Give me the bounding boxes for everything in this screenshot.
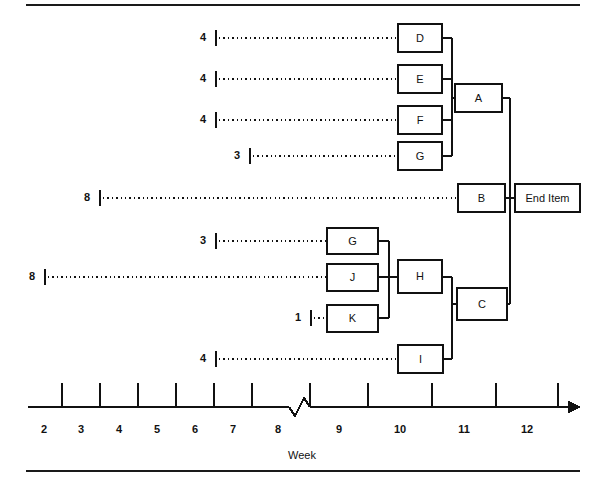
lead-time-label-d: 4 [196, 32, 210, 43]
axis-title-week: Week [270, 450, 334, 461]
node-label-g-top: G [398, 151, 442, 162]
axis-tick-label-10: 10 [388, 424, 412, 435]
axis-tick-label-4: 4 [107, 424, 131, 435]
axis-tick-label-7: 7 [221, 424, 245, 435]
axis-break-zigzag [289, 398, 310, 416]
axis-tick-label-5: 5 [145, 424, 169, 435]
node-label-e: E [398, 74, 442, 85]
lead-time-label-j: 8 [25, 271, 39, 282]
lead-time-label-k: 1 [291, 312, 305, 323]
axis-tick-label-11: 11 [452, 424, 476, 435]
node-label-end-item: End Item [515, 193, 580, 204]
lead-time-label-g-bottom: 3 [196, 235, 210, 246]
axis-tick-label-8: 8 [266, 424, 290, 435]
node-label-k: K [327, 313, 378, 324]
node-label-f: F [398, 115, 442, 126]
node-label-i: I [398, 354, 443, 365]
axis-tick-label-6: 6 [183, 424, 207, 435]
lead-time-label-b: 8 [80, 192, 94, 203]
axis-tick-label-9: 9 [327, 424, 351, 435]
node-label-h: H [398, 271, 442, 282]
axis-tick-label-3: 3 [69, 424, 93, 435]
node-label-c: C [457, 299, 507, 310]
lead-time-label-f: 4 [196, 114, 210, 125]
node-label-j: J [327, 272, 378, 283]
axis-arrow-head [568, 401, 580, 413]
node-label-b: B [458, 193, 505, 204]
node-label-g-bottom: G [327, 236, 378, 247]
lead-time-label-g-top: 3 [230, 150, 244, 161]
axis-tick-label-12: 12 [515, 424, 539, 435]
lead-time-label-e: 4 [196, 73, 210, 84]
node-label-d: D [398, 33, 442, 44]
node-label-a: A [455, 93, 502, 104]
lead-time-label-i: 4 [196, 353, 210, 364]
figure-canvas: D E F G A B End Item G J K H I C 4 4 4 3… [0, 0, 604, 490]
axis-tick-label-2: 2 [32, 424, 56, 435]
diagram-vector-layer [0, 0, 604, 490]
